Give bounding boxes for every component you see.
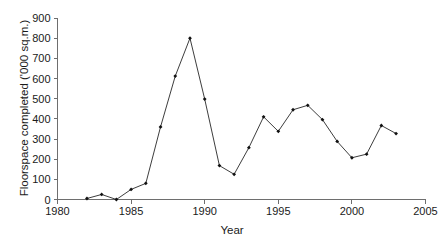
- y-tick-label: 900: [32, 12, 50, 24]
- x-axis-tick-marks: [58, 200, 426, 204]
- data-point-marker: [247, 146, 251, 150]
- x-axis-tick-labels: 198019851990199520002005: [45, 205, 437, 217]
- x-axis-title: Year: [220, 224, 243, 236]
- data-series-markers: [85, 36, 398, 201]
- data-point-marker: [394, 132, 398, 136]
- y-tick-label: 100: [32, 173, 50, 185]
- y-tick-label: 200: [32, 153, 50, 165]
- data-point-marker: [173, 74, 177, 78]
- x-tick-label: 2000: [340, 205, 364, 217]
- data-point-marker: [379, 124, 383, 128]
- y-tick-label: 700: [32, 52, 50, 64]
- x-tick-label: 1985: [119, 205, 143, 217]
- y-tick-label: 400: [32, 113, 50, 125]
- y-tick-label: 300: [32, 133, 50, 145]
- data-series-line: [87, 38, 396, 199]
- y-tick-label: 600: [32, 73, 50, 85]
- data-point-marker: [144, 181, 148, 185]
- chart-container: 0100200300400500600700800900 19801985199…: [0, 0, 446, 242]
- data-point-marker: [218, 164, 222, 168]
- data-point-marker: [365, 152, 369, 156]
- x-tick-label: 1995: [266, 205, 290, 217]
- y-tick-label: 800: [32, 32, 50, 44]
- x-tick-label: 1980: [45, 205, 69, 217]
- x-tick-label: 1990: [192, 205, 216, 217]
- data-point-marker: [100, 193, 104, 197]
- data-point-marker: [232, 172, 236, 176]
- data-point-marker: [159, 125, 163, 129]
- data-point-marker: [203, 97, 207, 101]
- y-axis-tick-marks: [54, 18, 58, 200]
- y-axis-title: Floorspace completed ('000 sq.m.): [18, 19, 30, 196]
- y-tick-label: 500: [32, 93, 50, 105]
- y-axis-tick-labels: 0100200300400500600700800900: [32, 12, 50, 206]
- data-point-marker: [188, 36, 192, 40]
- line-chart: 0100200300400500600700800900 19801985199…: [0, 0, 446, 242]
- x-tick-label: 2005: [413, 205, 437, 217]
